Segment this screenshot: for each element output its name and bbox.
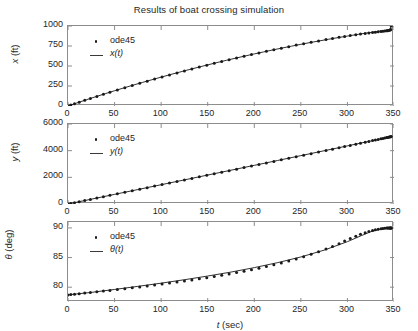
x-tick-label: 150 [192, 304, 222, 314]
figure-canvas: Results of boat crossing simulation x (f… [0, 0, 418, 331]
x-tick-label: 100 [145, 304, 175, 314]
y-axis-symbol-theta: θ [3, 254, 14, 259]
legend-entry-thetat: θ(t) [85, 242, 135, 255]
legend-entry-ode45: ode45 [85, 229, 135, 242]
x-tick-label: 350 [378, 304, 408, 314]
x-tick-label: 0 [52, 304, 82, 314]
y-tick-label: 80 [25, 280, 63, 290]
dot-marker-icon [85, 231, 107, 241]
legend-theta: ode45 θ(t) [85, 229, 135, 255]
legend-label-thetat: θ(t) [107, 244, 123, 254]
y-tick-label: 90 [25, 221, 63, 231]
x-tick-label: 300 [331, 304, 361, 314]
subplot-theta-vs-t: θ (deg) 808590 050100150200250300350 ode… [0, 0, 418, 331]
x-tick-label: 200 [238, 304, 268, 314]
y-axis-unit-theta: (deg) [3, 230, 14, 255]
x-tick-label: 50 [99, 304, 129, 314]
line-marker-icon [85, 244, 107, 254]
x-axis-label: t (sec) [0, 319, 418, 330]
x-axis-unit: (sec) [219, 319, 243, 330]
y-tick-label: 85 [25, 251, 63, 261]
x-tick-label: 250 [285, 304, 315, 314]
legend-label-ode45: ode45 [107, 231, 135, 241]
